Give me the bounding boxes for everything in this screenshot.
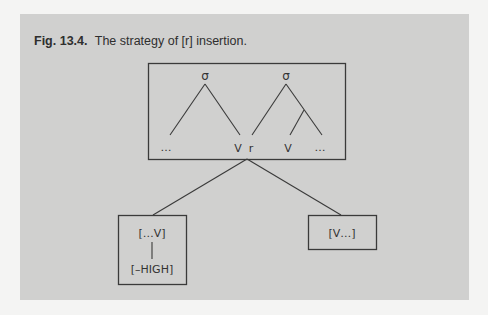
- connector-left: [153, 159, 247, 215]
- left-box-feature: [–HIGH]: [131, 263, 173, 276]
- syllable-2-node: σ: [282, 69, 290, 83]
- syllable-1-right-leaf: V: [234, 142, 242, 155]
- syllable-1-node: σ: [201, 69, 209, 83]
- insertion-diagram: σ … V σ r V … […V] [–HIGH] [V…]: [0, 0, 488, 315]
- connector-right: [247, 159, 341, 215]
- right-box-segment: [V…]: [328, 227, 355, 240]
- syllable-2-tree: σ r V …: [249, 69, 326, 155]
- syllable-2-sub-right-leaf: …: [315, 141, 326, 154]
- syllable-1-left-leaf: …: [161, 141, 172, 154]
- syllable-2-left-leaf: r: [249, 142, 254, 155]
- left-box-segment: […V]: [138, 227, 165, 240]
- syllable-2-sub-left-leaf: V: [284, 142, 292, 155]
- syllable-1-tree: σ … V: [161, 69, 243, 155]
